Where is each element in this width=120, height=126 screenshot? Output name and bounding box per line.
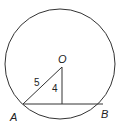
label-b: B [101,108,108,120]
label-a: A [9,111,17,123]
label-length-of: 4 [52,83,58,94]
geometry-diagram: O A B 5 4 [0,0,120,126]
label-length-oa: 5 [34,77,40,88]
label-o: O [58,53,67,65]
diagram-svg: O A B 5 4 [0,0,120,126]
